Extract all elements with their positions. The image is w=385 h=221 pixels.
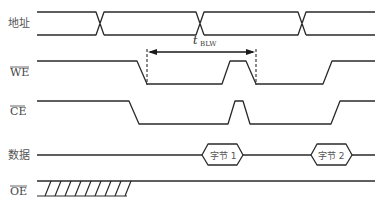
- signal-label-address: 地址: [8, 16, 30, 30]
- signal-label-ce: CE: [10, 105, 26, 118]
- signal-we: WE: [10, 61, 375, 84]
- timing-diagram: 地址 t BLW WE CE 数据 字节 1 字节 2 OE: [0, 0, 385, 221]
- signal-data: 数据 字节 1 字节 2: [8, 144, 375, 165]
- timing-annotation-tblw: t BLW: [147, 34, 256, 85]
- we-waveform: [37, 61, 375, 84]
- signal-ce: CE: [10, 101, 375, 124]
- ce-waveform: [37, 101, 375, 124]
- arrowhead-left-icon: [148, 49, 157, 55]
- data-byte-1-label: 字节 1: [210, 150, 237, 161]
- arrowhead-right-icon: [246, 49, 255, 55]
- timing-symbol: t: [193, 34, 198, 47]
- signal-address: 地址: [8, 12, 375, 35]
- oe-dont-care-hatching: [37, 181, 131, 196]
- timing-subscript: BLW: [200, 40, 217, 48]
- signal-label-oe: OE: [10, 185, 27, 198]
- signal-label-data: 数据: [8, 148, 30, 162]
- data-byte-2-label: 字节 2: [318, 150, 345, 161]
- signal-label-we: WE: [10, 66, 29, 79]
- address-bus-waveform: [37, 12, 375, 35]
- signal-oe: OE: [10, 181, 375, 198]
